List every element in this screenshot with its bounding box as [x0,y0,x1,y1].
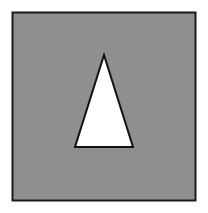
diagram-canvas [0,0,208,213]
